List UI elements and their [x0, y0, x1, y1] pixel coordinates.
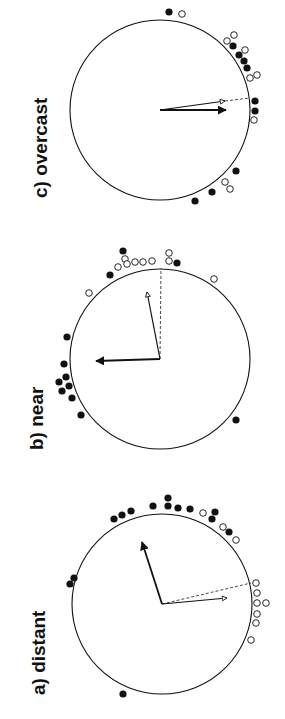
filled-data-point: [62, 373, 69, 380]
filled-data-point: [232, 416, 239, 423]
open-data-point: [211, 276, 218, 283]
filled-data-point: [211, 508, 218, 515]
filled-data-point: [66, 580, 73, 587]
open-data-point: [124, 261, 131, 268]
filled-data-point: [119, 690, 126, 697]
open-mean-arrow-icon: [160, 101, 225, 110]
filled-data-point: [186, 505, 193, 512]
open-mean-arrow-icon: [147, 292, 160, 359]
filled-data-point: [174, 504, 181, 511]
filled-data-point: [70, 574, 77, 581]
open-data-point: [254, 600, 261, 607]
filled-data-point: [208, 515, 215, 522]
filled-data-point: [110, 515, 117, 522]
filled-mean-arrow-icon: [142, 542, 162, 604]
filled-mean-arrow-icon: [96, 359, 160, 361]
open-data-point: [224, 38, 231, 45]
filled-data-point: [127, 507, 134, 514]
open-data-point: [253, 620, 260, 627]
open-data-point: [233, 537, 240, 544]
filled-data-point: [68, 394, 75, 401]
filled-data-point: [164, 494, 171, 501]
open-data-point: [166, 250, 173, 257]
filled-data-point: [251, 97, 258, 104]
panel-label-b: b) near: [26, 387, 48, 450]
filled-data-point: [251, 107, 258, 114]
filled-data-point: [173, 259, 180, 266]
filled-data-point: [235, 51, 242, 58]
filled-data-point: [229, 42, 236, 49]
reference-dashed-line: [225, 98, 250, 101]
filled-data-point: [55, 378, 62, 385]
open-data-point: [227, 186, 234, 193]
filled-data-point: [243, 64, 250, 71]
open-data-point: [248, 637, 255, 644]
filled-data-point: [165, 8, 172, 15]
reference-dashed-line: [162, 583, 251, 604]
open-data-point: [263, 600, 270, 607]
filled-data-point: [65, 382, 72, 389]
filled-data-point: [225, 528, 232, 535]
filled-data-point: [208, 188, 215, 195]
open-data-point: [251, 117, 258, 124]
open-data-point: [220, 524, 227, 531]
filled-data-point: [119, 247, 126, 254]
open-data-point: [254, 590, 261, 597]
panel-c: [70, 8, 260, 204]
filled-data-point: [191, 197, 198, 204]
open-data-point: [247, 75, 254, 82]
filled-data-point: [149, 502, 156, 509]
panel-label-c: c) overcast: [30, 98, 52, 198]
open-data-point: [132, 259, 139, 266]
open-data-point: [86, 290, 93, 297]
open-data-point: [166, 258, 173, 265]
filled-data-point: [232, 167, 239, 174]
filled-data-point: [118, 511, 125, 518]
open-data-point: [242, 47, 249, 54]
filled-data-point: [58, 387, 65, 394]
filled-data-point: [77, 411, 84, 418]
panel-b: [55, 247, 250, 449]
open-data-point: [222, 179, 229, 186]
open-data-point: [253, 580, 260, 587]
filled-data-point: [164, 502, 171, 509]
open-mean-arrow-icon: [162, 598, 227, 604]
filled-data-point: [63, 333, 70, 340]
reference-dashed-line: [160, 268, 161, 359]
filled-data-point: [106, 271, 113, 278]
open-data-point: [179, 11, 186, 18]
open-data-point: [149, 258, 156, 265]
filled-data-point: [60, 360, 67, 367]
open-data-point: [140, 259, 147, 266]
open-data-point: [231, 32, 238, 39]
filled-data-point: [240, 57, 247, 64]
open-data-point: [115, 264, 122, 271]
open-data-point: [200, 510, 207, 517]
panel-a: [66, 494, 269, 697]
open-data-point: [254, 611, 261, 618]
panel-label-a: a) distant: [28, 611, 50, 695]
open-data-point: [254, 72, 261, 79]
